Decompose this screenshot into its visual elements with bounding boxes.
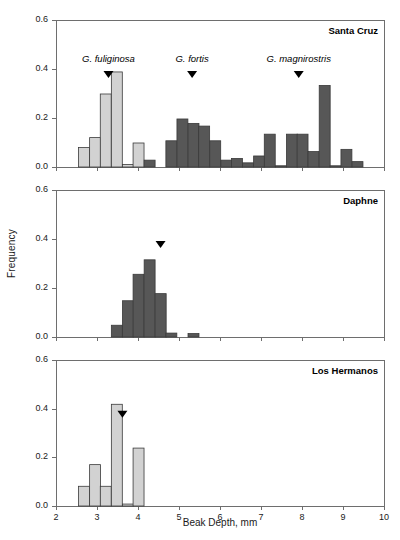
histogram-bar [231, 158, 242, 167]
histogram-bar [254, 156, 265, 167]
histogram-bar [319, 85, 330, 167]
species-marker-triangle-2 [187, 71, 197, 78]
y-tick-label: 0.2 [22, 282, 48, 292]
species-label-2: G. fortis [132, 53, 252, 64]
panel-title-los-hermanos: Los Hermanos [312, 365, 378, 376]
histogram-bar [90, 465, 101, 506]
histogram-bar [79, 147, 90, 167]
histogram-bar [188, 123, 199, 167]
histogram-bar [90, 138, 101, 167]
histogram-bar [352, 162, 363, 167]
y-tick-label: 0.0 [22, 161, 48, 171]
histogram-bar [166, 333, 177, 337]
x-tick-label: 6 [210, 512, 230, 522]
histogram-bar [188, 334, 199, 337]
panel-marker-triangle [156, 241, 166, 248]
histogram-bar [243, 163, 254, 167]
histogram-bar [330, 166, 341, 167]
histogram-bar [144, 160, 155, 167]
x-tick-label: 7 [251, 512, 271, 522]
y-tick-label: 0.2 [22, 451, 48, 461]
panel-frame-3 [57, 361, 385, 507]
histogram-bar [264, 134, 275, 167]
beak-depth-histogram-figure [0, 0, 400, 540]
y-tick-label: 0.6 [22, 14, 48, 24]
histogram-bar [221, 160, 232, 167]
histogram-bar [133, 274, 144, 337]
x-tick-label: 4 [128, 512, 148, 522]
panel-title-santa-cruz: Santa Cruz [328, 25, 378, 36]
panel-frame-2 [57, 191, 385, 338]
species-label-3: G. magnirostris [239, 53, 359, 64]
histogram-bar [297, 134, 308, 167]
histogram-bar [166, 141, 177, 167]
y-tick-label: 0.2 [22, 112, 48, 122]
y-tick-label: 0.4 [22, 63, 48, 73]
histogram-bar [155, 294, 166, 337]
histogram-bar [100, 94, 111, 167]
y-tick-label: 0.4 [22, 403, 48, 413]
histogram-bar [133, 448, 144, 506]
y-tick-label: 0.0 [22, 500, 48, 510]
x-tick-label: 2 [46, 512, 66, 522]
histogram-bar [144, 260, 155, 337]
x-tick-label: 5 [169, 512, 189, 522]
histogram-bar [111, 404, 122, 506]
histogram-bar [341, 149, 352, 167]
histogram-bar [122, 504, 133, 506]
y-tick-label: 0.6 [22, 354, 48, 364]
y-tick-label: 0.4 [22, 233, 48, 243]
histogram-bar [199, 126, 210, 167]
histogram-bar [122, 165, 133, 167]
y-tick-label: 0.6 [22, 184, 48, 194]
x-tick-label: 3 [87, 512, 107, 522]
histogram-bar [111, 72, 122, 167]
histogram-bar [286, 134, 297, 167]
histogram-bar [122, 301, 133, 337]
y-axis-label: Frequency [6, 199, 17, 309]
histogram-bar [308, 152, 319, 167]
y-tick-label: 0.0 [22, 331, 48, 341]
histogram-bar [100, 486, 111, 506]
chart-canvas [0, 0, 400, 540]
x-tick-label: 9 [333, 512, 353, 522]
histogram-bar [177, 119, 188, 167]
x-tick-label: 8 [292, 512, 312, 522]
histogram-bar [111, 325, 122, 337]
histogram-bar [133, 143, 144, 167]
histogram-bar [210, 141, 221, 167]
histogram-bar [275, 166, 286, 167]
species-marker-triangle-3 [294, 71, 304, 78]
x-tick-label: 10 [374, 512, 394, 522]
histogram-bar [79, 486, 90, 506]
panel-title-daphne: Daphne [343, 195, 378, 206]
